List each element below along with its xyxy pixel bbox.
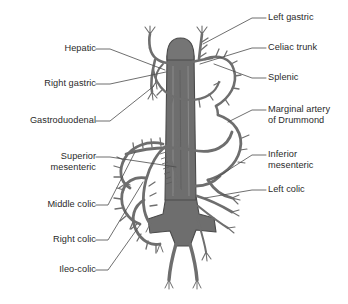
label-hepatic: Hepatic <box>0 43 96 54</box>
iliac-terminal-branches <box>165 280 201 289</box>
proper-hepatic-artery <box>149 34 150 48</box>
label-gastroduodenal: Gastroduodenal <box>0 115 96 126</box>
iliac-arteries-group <box>169 244 197 280</box>
label-right-gastric: Right gastric <box>0 78 96 89</box>
leader-left-gastric <box>203 18 266 44</box>
leader-inferior-mesenteric <box>216 155 266 178</box>
leader-superior-mesenteric <box>96 157 176 167</box>
label-superior-mesenteric-line1: Superior <box>0 151 96 162</box>
leader-gastroduodenal <box>96 86 154 121</box>
label-ileo-colic: Ileo-colic <box>0 264 96 275</box>
label-right-colic: Right colic <box>0 234 96 245</box>
common-hepatic-artery <box>150 48 168 63</box>
label-celiac-trunk: Celiac trunk <box>268 42 348 53</box>
right-common-iliac <box>169 244 176 280</box>
marginal-artery-of-drummond <box>208 115 241 180</box>
aortic-bifurcation <box>148 196 216 246</box>
left-common-iliac <box>190 244 197 280</box>
label-left-colic: Left colic <box>268 184 348 195</box>
leader-splenic <box>214 64 266 78</box>
label-splenic: Splenic <box>268 72 348 83</box>
aorta-superior-cap <box>167 38 194 60</box>
label-inferior-mesenteric-line2: mesenteric <box>268 160 348 171</box>
leader-marginal-artery <box>228 110 266 122</box>
marginal-superior-connection <box>216 106 218 115</box>
ima-terminal-branches <box>202 135 249 261</box>
label-marginal-artery-line2: of Drummond <box>268 115 348 126</box>
label-marginal-artery-line1: Marginal artery <box>268 104 348 115</box>
label-left-gastric: Left gastric <box>268 12 348 23</box>
diagram-page: Hepatic Right gastric Gastroduodenal Sup… <box>0 0 348 304</box>
leader-ileo-colic <box>96 225 140 270</box>
leader-celiac-trunk <box>200 48 266 64</box>
label-inferior-mesenteric-line1: Inferior <box>268 149 348 160</box>
superior-mesenteric-artery <box>143 146 166 224</box>
label-middle-colic: Middle colic <box>0 199 96 210</box>
label-superior-mesenteric-line2: mesenteric <box>0 162 96 173</box>
